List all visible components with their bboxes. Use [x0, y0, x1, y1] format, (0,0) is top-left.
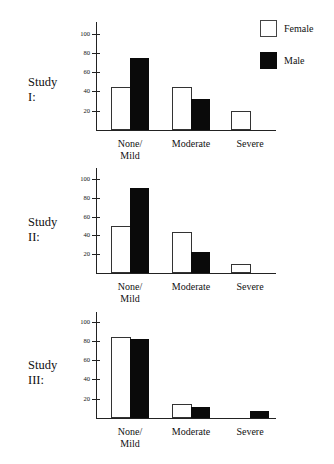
y-tick-label: 100: [70, 175, 90, 182]
study-label: Study III:: [28, 358, 57, 388]
y-tick: [92, 53, 100, 54]
y-tick-label: 100: [70, 318, 90, 325]
y-axis: [96, 168, 97, 273]
y-tick: [92, 179, 100, 180]
legend-male-label: Male: [284, 55, 305, 66]
y-tick: [92, 91, 100, 92]
y-tick-label: 40: [70, 375, 90, 382]
y-tick-label: 60: [70, 356, 90, 363]
y-tick-label: 20: [70, 107, 90, 114]
x-axis: [96, 130, 276, 131]
y-tick-label: 80: [70, 194, 90, 201]
bar-male: [130, 339, 149, 418]
category-label-severe: Severe: [220, 426, 280, 438]
bar-female: [111, 337, 131, 418]
y-tick-label: 60: [70, 213, 90, 220]
y-tick: [92, 254, 100, 255]
bar-female: [172, 87, 192, 130]
y-tick: [92, 72, 100, 73]
bar-female: [111, 87, 131, 130]
y-tick: [92, 341, 100, 342]
legend-female-swatch: [260, 20, 277, 37]
x-axis: [96, 273, 276, 274]
y-tick: [92, 322, 100, 323]
y-tick-label: 20: [70, 395, 90, 402]
category-label-none-mild: None/: [100, 138, 160, 150]
y-axis: [96, 22, 97, 130]
y-tick-label: 60: [70, 68, 90, 75]
bar-female: [231, 264, 251, 273]
bar-male: [250, 411, 269, 418]
y-tick-label: 20: [70, 250, 90, 257]
y-tick: [92, 217, 100, 218]
y-tick-label: 40: [70, 87, 90, 94]
category-label-none-mild: None/: [100, 426, 160, 438]
category-label-moderate: Moderate: [161, 281, 221, 293]
bar-female: [172, 404, 192, 418]
y-tick: [92, 34, 100, 35]
legend-female-label: Female: [284, 23, 313, 34]
y-tick: [92, 198, 100, 199]
bar-male: [191, 99, 210, 130]
category-label-none-mild: Mild: [100, 438, 160, 450]
category-label-moderate: Moderate: [161, 426, 221, 438]
y-tick: [92, 360, 100, 361]
y-tick: [92, 399, 100, 400]
y-tick: [92, 235, 100, 236]
y-tick-label: 80: [70, 49, 90, 56]
bar-male: [130, 188, 149, 273]
category-label-severe: Severe: [220, 281, 280, 293]
y-tick-label: 80: [70, 337, 90, 344]
bar-female: [231, 111, 251, 130]
x-axis: [96, 418, 276, 419]
y-tick: [92, 379, 100, 380]
category-label-none-mild: Mild: [100, 150, 160, 162]
y-tick: [92, 111, 100, 112]
category-label-moderate: Moderate: [161, 138, 221, 150]
bar-male: [191, 407, 210, 418]
study-label: Study II:: [28, 215, 57, 245]
legend-male-swatch: [260, 52, 277, 69]
category-label-none-mild: None/: [100, 281, 160, 293]
bar-female: [172, 232, 192, 273]
study-label: Study I:: [28, 75, 57, 105]
y-tick-label: 100: [70, 30, 90, 37]
category-label-none-mild: Mild: [100, 293, 160, 305]
y-axis: [96, 312, 97, 418]
category-label-severe: Severe: [220, 138, 280, 150]
bar-female: [111, 226, 131, 273]
bar-male: [191, 252, 210, 273]
bar-male: [130, 58, 149, 130]
y-tick-label: 40: [70, 231, 90, 238]
